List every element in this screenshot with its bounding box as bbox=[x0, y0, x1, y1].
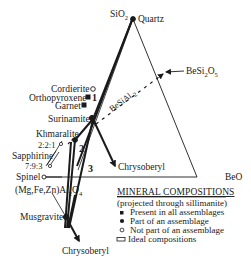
legend-filled-square-icon bbox=[120, 211, 124, 215]
field-number-1: 1 bbox=[92, 92, 97, 103]
garnet-marker-filled-square bbox=[82, 103, 86, 107]
sapphirine-label: Sapphirine bbox=[12, 151, 53, 161]
apex-beo-label: BeO bbox=[225, 172, 243, 182]
quartz-marker-filled-circle bbox=[131, 17, 136, 22]
legend-open-circle-icon bbox=[120, 228, 124, 232]
legend-filled-circle-icon bbox=[120, 219, 124, 223]
spinel-marker-open-circle bbox=[42, 175, 46, 179]
legend-title: MINERAL COMPOSITIONS bbox=[117, 187, 235, 197]
chrysoberyl-bottom-label: Chrysoberyl bbox=[62, 246, 109, 256]
ternary-diagram: SiO2 Quartz BeO (Mg,Fe,Zn)Al2O4 Cordieri… bbox=[0, 0, 251, 264]
quartz-label: Quartz bbox=[138, 14, 164, 24]
khmaralite-label: Khmaralite bbox=[36, 129, 79, 139]
legend: MINERAL COMPOSITIONS (projected through … bbox=[117, 187, 235, 244]
ratio-221-marker-open-circle bbox=[59, 142, 62, 145]
besi2o5-leader bbox=[166, 71, 184, 72]
spinel-label: Spinel bbox=[16, 172, 41, 182]
edge-quartz-beo bbox=[133, 19, 197, 177]
field-number-3: 3 bbox=[88, 163, 93, 174]
ratio-221-label: 2:2:1 bbox=[38, 140, 55, 150]
ratio-793-label: 7:9:3 bbox=[25, 161, 42, 171]
arrow-surinamite-chrysoberyl bbox=[93, 119, 115, 166]
musgravite-marker-filled-circle bbox=[63, 214, 68, 219]
cordierite-marker-open-circle bbox=[91, 87, 96, 92]
legend-item-ideal: Ideal compositions bbox=[128, 234, 197, 244]
besial-line-label: BeSiAl-2 bbox=[107, 87, 138, 114]
besi2o5-label: BeSi2O5 bbox=[186, 66, 218, 78]
chrysoberyl-right-label: Chrysoberyl bbox=[118, 162, 165, 172]
surinamite-marker-filled-circle bbox=[89, 115, 94, 120]
surinamite-label: Surinamite bbox=[48, 114, 90, 124]
apex-spinel-composition-label: (Mg,Fe,Zn)Al2O4 bbox=[15, 185, 83, 197]
arrow-musgravite-chrysoberyl bbox=[66, 217, 79, 241]
apex-sio2-label: SiO2 bbox=[110, 9, 128, 21]
orthopyroxene-marker-filled-square bbox=[86, 95, 90, 99]
garnet-label: Garnet bbox=[55, 101, 81, 111]
legend-open-rectangle-icon bbox=[117, 238, 125, 242]
musgravite-label: Musgravite bbox=[20, 212, 63, 222]
field-number-2: 2 bbox=[79, 143, 84, 154]
ratio-793-marker-open-circle bbox=[48, 164, 51, 167]
